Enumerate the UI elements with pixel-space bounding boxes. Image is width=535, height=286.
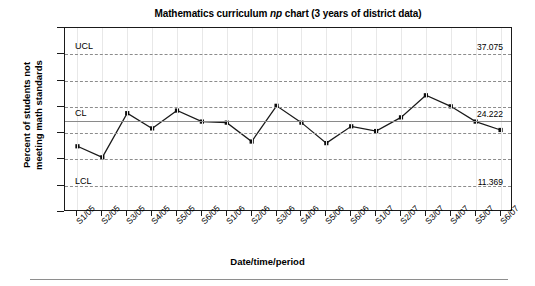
- data-line: [77, 95, 500, 157]
- np-control-chart-figure: Mathematics curriculum np chart (3 years…: [0, 0, 535, 286]
- vertical-gridline: [451, 28, 452, 210]
- y-tick-mark-27: [57, 106, 64, 107]
- cl-label: CL: [75, 108, 87, 118]
- y-tick-mark-7: [57, 211, 64, 212]
- gridline-22: [65, 133, 511, 134]
- y-tick-mark-22: [57, 132, 64, 133]
- lcl-label: LCL: [75, 176, 92, 186]
- plot-area: UCLCLLCL37.07524.22211.369: [64, 27, 512, 211]
- y-tick-mark-37: [57, 53, 64, 54]
- y-tick-mark-17: [57, 158, 64, 159]
- ucl-label: UCL: [75, 41, 93, 51]
- vertical-gridline: [177, 28, 178, 210]
- gridline-12: [65, 186, 511, 187]
- ucl-value: 37.075: [477, 42, 503, 52]
- vertical-gridline: [227, 28, 228, 210]
- vertical-gridline: [426, 28, 427, 210]
- vertical-gridline: [376, 28, 377, 210]
- y-axis-title-line2: meeting math standards: [33, 20, 45, 210]
- data-series-layer: [65, 28, 513, 212]
- gridline-17: [65, 159, 511, 160]
- vertical-gridline: [102, 28, 103, 210]
- vertical-gridline: [277, 28, 278, 210]
- vertical-gridline: [401, 28, 402, 210]
- y-axis-title: Percent of students not meeting math sta…: [21, 20, 45, 210]
- y-axis-title-line1: Percent of students not: [21, 20, 33, 210]
- y-tick-mark-32: [57, 80, 64, 81]
- bottom-divider: [30, 279, 508, 280]
- plot-inner: UCLCLLCL37.07524.22211.369: [65, 28, 511, 210]
- cl-value: 24.222: [477, 109, 503, 119]
- x-axis-title: Date/time/period: [0, 256, 535, 267]
- gridline-37: [65, 54, 511, 55]
- lcl-value: 11.369: [478, 177, 503, 187]
- chart-title-suffix: chart (3 years of district data): [282, 8, 422, 19]
- y-tick-mark-42: [57, 27, 64, 28]
- vertical-gridline: [152, 28, 153, 210]
- chart-title-italic-np: np: [270, 8, 282, 19]
- vertical-gridline: [326, 28, 327, 210]
- vertical-gridline: [351, 28, 352, 210]
- vertical-gridline: [252, 28, 253, 210]
- vertical-gridline: [202, 28, 203, 210]
- vertical-gridline: [301, 28, 302, 210]
- gridline-32: [65, 81, 511, 82]
- vertical-gridline: [127, 28, 128, 210]
- chart-title-prefix: Mathematics curriculum: [154, 8, 270, 19]
- chart-title: Mathematics curriculum np chart (3 years…: [64, 8, 512, 19]
- y-tick-mark-12: [57, 185, 64, 186]
- center-line: [65, 121, 511, 122]
- gridline-27: [65, 107, 511, 108]
